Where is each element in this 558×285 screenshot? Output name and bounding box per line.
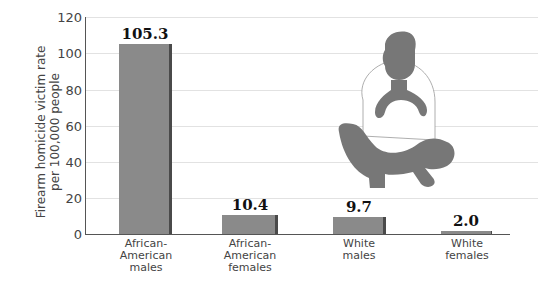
bar-chart: Firearm homicide victim rate per 100,000… bbox=[0, 0, 558, 285]
category-line: females bbox=[205, 262, 295, 274]
y-tick-40: 40 bbox=[56, 155, 82, 170]
category-line: males bbox=[314, 250, 404, 262]
category-line: females bbox=[422, 250, 512, 262]
y-tick-20: 20 bbox=[56, 191, 82, 206]
category-label-african-american-males: African- American males bbox=[101, 238, 191, 274]
bar-white-males bbox=[333, 217, 386, 234]
category-label-white-males: White males bbox=[314, 238, 404, 262]
crouching-person-illustration bbox=[335, 28, 460, 188]
gridline-120 bbox=[86, 17, 538, 18]
value-label-white-males: 9.7 bbox=[319, 198, 399, 216]
category-label-african-american-females: African- American females bbox=[205, 238, 295, 274]
y-tick-60: 60 bbox=[56, 119, 82, 134]
y-tick-0: 0 bbox=[56, 227, 82, 242]
value-label-african-american-males: 105.3 bbox=[105, 25, 185, 43]
x-axis bbox=[85, 234, 510, 235]
y-tick-100: 100 bbox=[56, 46, 82, 61]
category-label-white-females: White females bbox=[422, 238, 512, 262]
bar-african-american-females bbox=[222, 215, 278, 234]
y-axis bbox=[85, 17, 86, 235]
y-tick-80: 80 bbox=[56, 83, 82, 98]
value-label-white-females: 2.0 bbox=[426, 212, 506, 230]
y-axis-label-line-1: Firearm homicide victim rate bbox=[34, 32, 48, 232]
value-label-african-american-females: 10.4 bbox=[210, 196, 290, 214]
category-line: males bbox=[101, 262, 191, 274]
bar-african-american-males bbox=[119, 44, 172, 234]
y-tick-120: 120 bbox=[56, 10, 82, 25]
